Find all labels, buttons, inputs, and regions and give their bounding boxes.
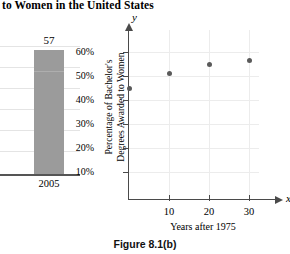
x-axis-arrow-icon — [275, 196, 283, 204]
figure-title: to Women in the United States — [2, 0, 154, 11]
gridline-60 — [129, 52, 259, 53]
y-tick-label-60: 60% — [54, 46, 94, 57]
gridline-20 — [129, 148, 259, 149]
data-point-20 — [207, 62, 212, 67]
y-tick-20 — [123, 148, 129, 149]
x-tick-label-10: 10 — [156, 206, 182, 217]
scatter-axes: y 60% 50% 40% 30% 20% 10% x 10 20 30 — [95, 16, 290, 231]
y-tick-40 — [123, 100, 129, 101]
scatter-chart: Percentage of Bachelor's Degrees Awarded… — [95, 16, 290, 231]
y-tick-10 — [123, 172, 129, 173]
gridline-40 — [129, 100, 259, 101]
y-tick-label-50: 50% — [54, 70, 94, 81]
gridline-x30 — [249, 30, 250, 200]
x-tick-20 — [209, 195, 210, 201]
x-tick-label-30: 30 — [236, 206, 262, 217]
data-point-0 — [127, 86, 132, 91]
y-tick-label-20: 20% — [54, 142, 94, 153]
data-point-10 — [167, 71, 172, 76]
x-axis-title: Years after 1975 — [128, 221, 278, 232]
gridline-x20 — [209, 30, 210, 200]
x-axis-symbol: x — [286, 192, 290, 204]
gridline-30 — [129, 124, 259, 125]
bar-value-label: 57 — [34, 34, 64, 46]
y-axis-line — [128, 30, 129, 200]
y-axis-symbol: y — [132, 11, 137, 23]
y-tick-label-40: 40% — [54, 94, 94, 105]
data-point-30 — [247, 58, 252, 63]
x-axis-line — [128, 199, 276, 200]
y-tick-60 — [123, 52, 129, 53]
y-tick-50 — [123, 76, 129, 77]
bar-category-label: 2005 — [34, 178, 64, 189]
figure-caption: Figure 8.1(b) — [0, 238, 290, 250]
gridline-50 — [129, 76, 259, 77]
x-tick-label-20: 20 — [196, 206, 222, 217]
gridline-10 — [129, 172, 259, 173]
y-tick-label-30: 30% — [54, 118, 94, 129]
gridline-x10 — [169, 30, 170, 200]
x-tick-10 — [169, 195, 170, 201]
y-axis-arrow-icon — [125, 23, 133, 31]
figure-container: to Women in the United States 57 2005 Pe… — [0, 0, 290, 254]
y-tick-label-10: 10% — [54, 166, 94, 177]
bar-2005 — [34, 50, 64, 174]
x-tick-30 — [249, 195, 250, 201]
y-tick-30 — [123, 124, 129, 125]
